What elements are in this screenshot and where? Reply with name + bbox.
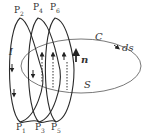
current-loops [10,18,75,122]
label-curve-c: C [95,32,103,42]
label-p1: P1 [16,123,26,134]
diagram-canvas: P2 P4 P6 P1 P3 P5 I C S n ds [0,0,143,138]
label-current-i: I [9,47,13,57]
label-p2: P2 [14,6,24,17]
label-surface-s: S [84,80,91,90]
label-ds: ds [122,43,134,53]
label-p5: P5 [51,123,61,134]
ds-arrow-icon [114,45,118,48]
loop-p1-p2 [10,18,43,122]
label-p4: P4 [33,3,43,14]
diagram-svg [0,0,143,138]
label-p6: P6 [50,3,60,14]
label-p3: P3 [35,123,45,134]
label-normal-n: n [81,55,88,65]
